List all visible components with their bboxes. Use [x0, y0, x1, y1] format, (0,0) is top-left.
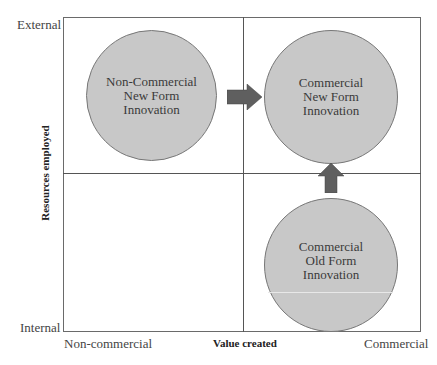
x-right-label: Commercial [364, 336, 428, 352]
arrow-right-icon [227, 84, 263, 110]
horizontal-divider [63, 173, 421, 174]
y-top-label: External [17, 17, 61, 33]
quadrant-label-top-left: Non-Commercial New Form Innovation [106, 75, 197, 117]
arrow-up-icon [318, 163, 344, 193]
circle-highlight-line [268, 292, 393, 293]
y-bottom-label: Internal [20, 320, 60, 336]
x-left-label: Non-commercial [64, 336, 152, 352]
vertical-divider [243, 17, 244, 332]
quadrant-label-top-right: Commercial New Form Innovation [299, 76, 363, 118]
x-axis-title: Value created [213, 337, 277, 349]
quadrant-label-bottom-right: Commercial Old Form Innovation [299, 240, 363, 282]
circle-commercial-new-form: Commercial New Form Innovation [264, 30, 398, 164]
circle-noncommercial-new-form: Non-Commercial New Form Innovation [86, 30, 217, 161]
circle-commercial-old-form: Commercial Old Form Innovation [264, 198, 398, 332]
y-axis-title: Resources employed [39, 118, 51, 228]
